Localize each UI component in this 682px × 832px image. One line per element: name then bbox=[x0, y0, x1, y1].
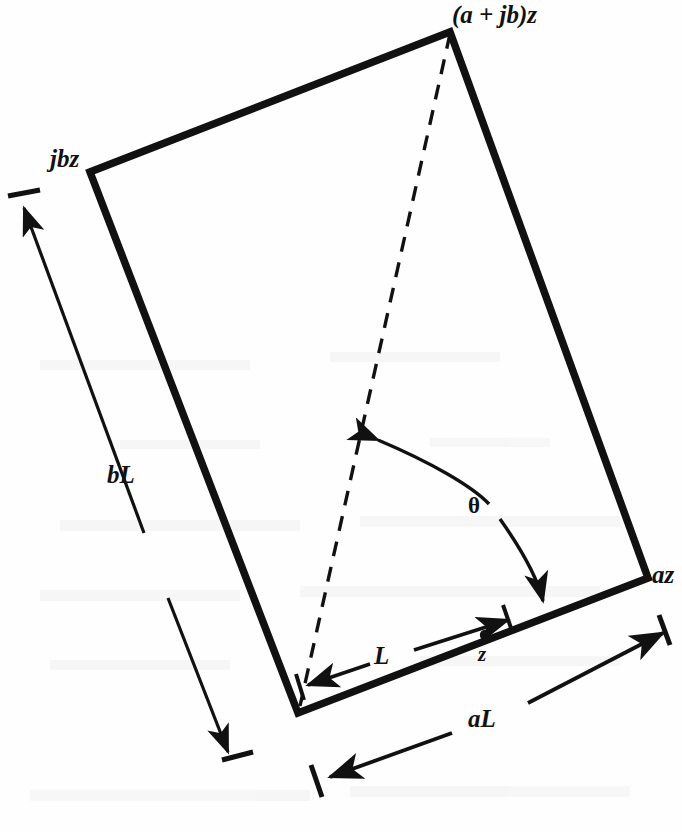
vertex-label-a-plus-jb-z: (a + jb)z bbox=[452, 2, 537, 27]
extension-tick-icon bbox=[8, 190, 40, 196]
extension-tick-icon bbox=[222, 752, 253, 760]
diagram-svg bbox=[0, 0, 682, 832]
vertex-label-az: az bbox=[652, 562, 674, 587]
dimension-label-L: L bbox=[374, 643, 389, 668]
dimension-label-aL: aL bbox=[468, 706, 496, 731]
angle-label-theta: θ bbox=[468, 494, 480, 517]
extension-tick-icon bbox=[503, 605, 512, 631]
extension-tick-icon bbox=[659, 615, 670, 645]
vertex-label-jbz: jbz bbox=[50, 146, 79, 171]
point-marker-z bbox=[480, 630, 490, 640]
extension-tick-icon bbox=[296, 674, 304, 700]
dashed-diagonal bbox=[300, 34, 450, 706]
figure-canvas: (a + jb)z jbz az bL aL L z θ bbox=[0, 0, 682, 832]
point-label-z: z bbox=[478, 644, 486, 665]
dimension-label-bL: bL bbox=[107, 462, 135, 487]
extension-tick-icon bbox=[311, 765, 322, 797]
